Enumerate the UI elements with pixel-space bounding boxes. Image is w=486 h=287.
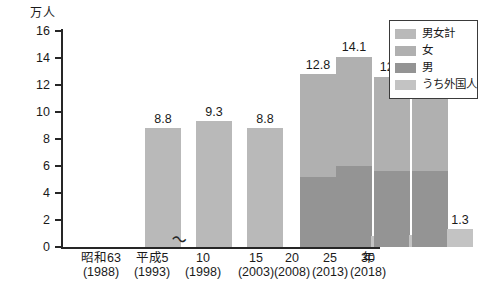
- y-axis-tick: [55, 138, 62, 140]
- y-axis-tick-label: 16: [4, 25, 50, 38]
- x-axis-label: 10(1998): [185, 251, 221, 279]
- legend-item-label: うち外国人: [422, 79, 477, 91]
- legend-item[interactable]: 男: [395, 60, 473, 76]
- y-axis-tick-label: 14: [4, 52, 50, 65]
- x-axis-label-era: 平成5: [134, 251, 170, 265]
- x-axis-label: 平成5(1993): [134, 251, 170, 279]
- bar-foreign: [447, 229, 473, 247]
- x-axis-label-year: (1993): [134, 265, 170, 279]
- axis-break-icon: 〜: [171, 229, 188, 250]
- y-axis-tick-label: 0: [4, 241, 50, 254]
- y-axis-tick-label: 10: [4, 106, 50, 119]
- y-axis-tick-label: 12: [4, 79, 50, 92]
- x-axis-label-year: (1998): [185, 265, 221, 279]
- x-axis-label-era: 昭和63: [81, 251, 121, 265]
- bar-segment-total: [247, 128, 283, 247]
- chart-container: 万人 0246810121416 8.89.38.812.814.10.812.…: [0, 0, 486, 287]
- y-axis-tick: [55, 192, 62, 194]
- legend-item[interactable]: 男女計: [395, 26, 473, 42]
- x-axis-label: 昭和63(1988): [81, 251, 121, 279]
- y-axis-tick-label: 2: [4, 214, 50, 227]
- legend-swatch-icon: [395, 29, 416, 39]
- legend-item-label: 男: [422, 62, 433, 74]
- bar-value-label: 8.8: [154, 113, 171, 126]
- x-axis-label: 25(2013): [312, 251, 348, 279]
- x-axis-label-era: 25: [312, 251, 348, 265]
- legend-item[interactable]: 女: [395, 43, 473, 59]
- bar-segment-female: [300, 74, 336, 177]
- chart-legend: 男女計女男うち外国人: [389, 20, 478, 99]
- y-axis-tick: [55, 165, 62, 167]
- bar-main: [412, 85, 448, 247]
- bar-segment-male: [300, 177, 336, 247]
- plot-area: 8.89.38.812.814.10.812.60.912.01.3: [62, 31, 373, 247]
- legend-item-label: 女: [422, 45, 433, 57]
- x-axis-label-era: 20: [274, 251, 310, 265]
- bar-value-label: 14.1: [342, 41, 366, 54]
- bar-value-label: 12.8: [306, 59, 330, 72]
- y-axis-tick: [55, 111, 62, 113]
- y-axis-tick: [55, 30, 62, 32]
- legend-swatch-icon: [395, 63, 416, 73]
- legend-item[interactable]: うち外国人: [395, 77, 473, 93]
- y-axis-tick: [55, 84, 62, 86]
- bar-segment-male: [374, 171, 410, 247]
- bar-main: [336, 57, 372, 247]
- y-axis-tick-label: 6: [4, 160, 50, 173]
- bar-segment-male: [336, 166, 372, 247]
- bar-segment-total: [196, 121, 232, 247]
- legend-item-label: 男女計: [422, 28, 455, 40]
- y-axis-tick: [55, 246, 62, 248]
- bar-value-label: 8.8: [256, 113, 273, 126]
- y-axis-unit-label: 万人: [30, 3, 55, 20]
- x-axis-label-year: (2008): [274, 265, 310, 279]
- bar-main: [247, 128, 283, 247]
- bar-main: [196, 121, 232, 247]
- bar-main: [300, 74, 336, 247]
- bar-segment-female: [336, 57, 372, 166]
- bar-segment-foreign: [447, 229, 473, 247]
- y-axis-tick-label: 8: [4, 133, 50, 146]
- y-axis-tick: [55, 57, 62, 59]
- x-axis-label-year: (2013): [312, 265, 348, 279]
- x-axis-label-year: (1988): [81, 265, 121, 279]
- legend-swatch-icon: [395, 80, 416, 90]
- bar-main: [374, 77, 410, 247]
- x-axis-line: [61, 247, 380, 249]
- y-axis-tick: [55, 219, 62, 221]
- y-axis-tick-label: 4: [4, 187, 50, 200]
- x-axis-unit-label: 年: [362, 251, 375, 265]
- x-axis-label-era: 15: [238, 251, 274, 265]
- x-axis-label: 15(2003): [238, 251, 274, 279]
- x-axis-label: 20(2008): [274, 251, 310, 279]
- bar-segment-male: [412, 171, 448, 247]
- x-axis-label-year: (2003): [238, 265, 274, 279]
- legend-swatch-icon: [395, 46, 416, 56]
- bar-foreign-value-label: 1.3: [451, 214, 468, 227]
- bar-value-label: 9.3: [205, 106, 222, 119]
- x-axis-label-era: 10: [185, 251, 221, 265]
- x-axis-label-year: (2018): [350, 265, 386, 279]
